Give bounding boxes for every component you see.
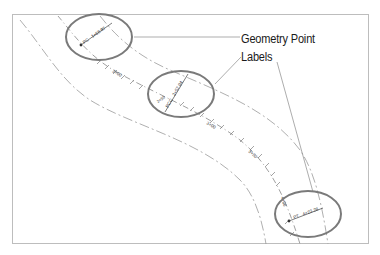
station-label: 3+50 bbox=[247, 149, 258, 160]
station-label: 2+50 bbox=[156, 94, 167, 104]
geometry-point-pt: PT4+23.28 bbox=[288, 206, 323, 222]
station-label: 2+00 bbox=[112, 69, 124, 79]
geometry-point-pc: PC1+68.97 bbox=[80, 23, 112, 46]
callout-line-1: Geometry Point bbox=[241, 30, 315, 48]
station-ticks bbox=[97, 60, 294, 236]
geometry-point-pcc: PCC2+57.94 2+50 bbox=[156, 74, 188, 112]
pc-label: PC1+68.97 bbox=[82, 25, 107, 45]
drawing-canvas: 2+00 3+00 3+50 4+00 PC1+68.97 PCC2+57.94… bbox=[0, 0, 380, 255]
callout-line-2: Labels bbox=[241, 48, 315, 66]
pt-label: PT4+23.28 bbox=[293, 206, 320, 220]
pcc-label: PCC2+57.94 bbox=[165, 80, 185, 109]
ellipse-pc bbox=[66, 14, 132, 60]
callout-title: Geometry Point Labels bbox=[241, 30, 315, 66]
ellipse-pcc bbox=[148, 71, 214, 117]
station-label: 3+00 bbox=[206, 121, 218, 131]
